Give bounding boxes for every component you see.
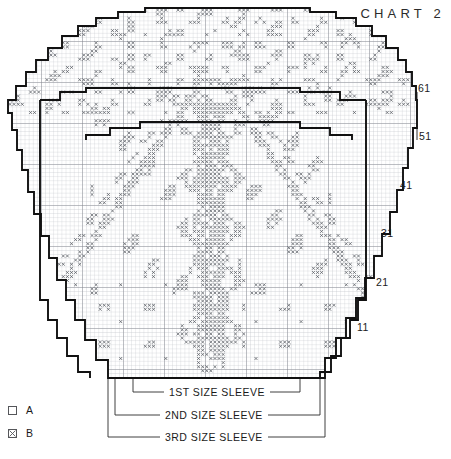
chart-page: CHART 2 61 51 41 31 21 11 1ST SIZE SLEEV… bbox=[0, 0, 451, 459]
bracket-label-1st-size: 1ST SIZE SLEEVE bbox=[164, 386, 270, 398]
legend: A B bbox=[8, 404, 33, 439]
legend-label-a: A bbox=[26, 405, 33, 416]
row-label-21: 21 bbox=[376, 276, 388, 288]
row-label-41: 41 bbox=[400, 179, 412, 191]
legend-item-b: B bbox=[8, 427, 33, 439]
page-title: CHART 2 bbox=[360, 6, 445, 21]
legend-label-b: B bbox=[26, 428, 33, 439]
row-label-61: 61 bbox=[418, 82, 430, 94]
empty-square-icon bbox=[8, 406, 17, 415]
row-label-51: 51 bbox=[419, 130, 431, 142]
row-label-31: 31 bbox=[381, 227, 393, 239]
bracket-label-2nd-size: 2ND SIZE SLEEVE bbox=[160, 409, 268, 421]
bracket-label-3rd-size: 3RD SIZE SLEEVE bbox=[160, 431, 268, 443]
legend-item-a: A bbox=[8, 404, 33, 416]
crossed-square-icon bbox=[8, 429, 17, 438]
row-label-11: 11 bbox=[357, 321, 369, 333]
